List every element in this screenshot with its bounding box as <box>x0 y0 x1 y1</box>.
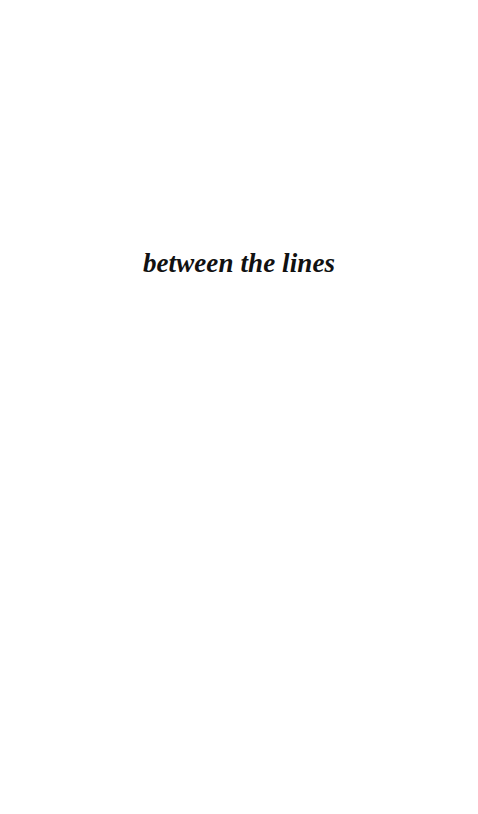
document-page: between the lines <box>0 0 478 814</box>
page-title: between the lines <box>143 249 335 277</box>
page-title-block: between the lines <box>0 231 478 296</box>
